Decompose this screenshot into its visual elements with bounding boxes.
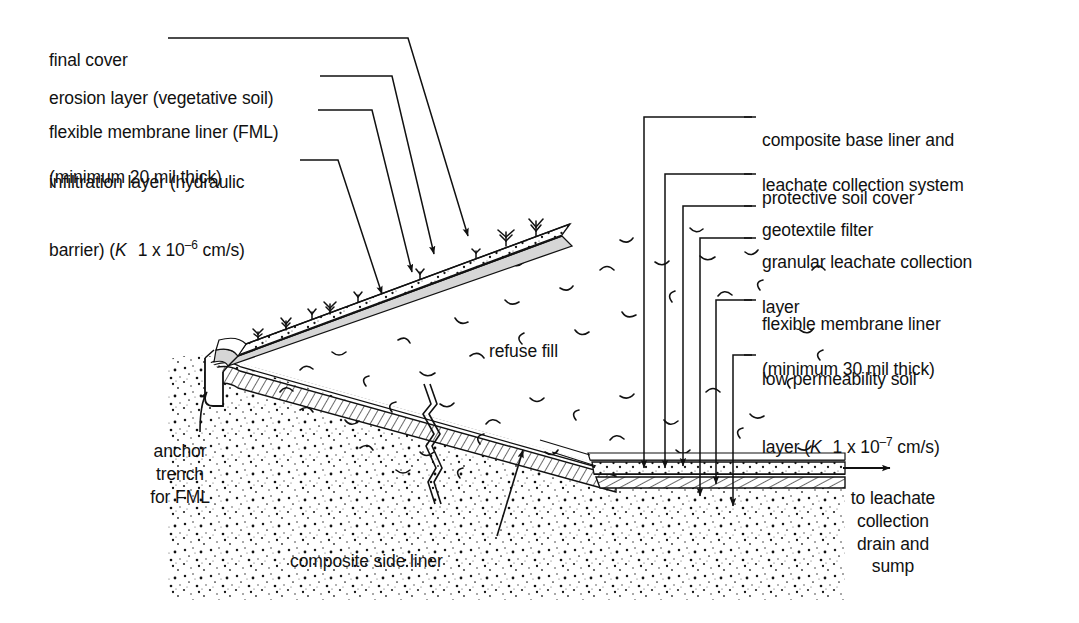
label-infiltration-pre: barrier) (	[49, 240, 115, 260]
label-low-permeability-soil-layer: low permeability soil layer (K1 x 10–7 c…	[762, 345, 940, 482]
label-to-leachate-collection: to leachate collection drain and sump	[818, 487, 968, 578]
label-infiltration-layer: infiltration layer (hydraulic barrier) (…	[49, 148, 245, 285]
label-low-perm-pre: layer (	[762, 437, 810, 457]
label-anchor-trench: anchor trench for FML	[120, 440, 240, 508]
label-fml-base-line1: flexible membrane liner	[762, 313, 941, 336]
label-low-perm-exponent: –7	[880, 435, 893, 449]
leader-erosion-layer	[320, 76, 434, 254]
leader-cover-fml	[318, 110, 412, 272]
label-low-perm-unit: cm/s)	[893, 437, 940, 457]
permeability-symbol-k-cover: K	[115, 240, 127, 260]
label-infiltration-line2: barrier) (K1 x 10–6 cm/s)	[49, 216, 245, 262]
label-composite-side-liner: composite side liner	[290, 550, 443, 573]
label-composite-base-liner-line1: composite base liner and	[762, 129, 964, 152]
right-leader-dashes	[744, 117, 756, 355]
label-infiltration-exponent: –6	[185, 238, 198, 252]
label-low-perm-line1: low permeability soil	[762, 368, 940, 391]
label-low-perm-line2: layer (K1 x 10–7 cm/s)	[762, 413, 940, 459]
label-infiltration-value: 1 x 10	[138, 240, 185, 260]
label-granular-leachate-line1: granular leachate collection	[762, 251, 972, 274]
figure-canvas: final cover erosion layer (vegetative so…	[0, 0, 1079, 623]
label-fml-cover-line1: flexible membrane liner (FML)	[49, 121, 279, 144]
label-low-perm-value: 1 x 10	[833, 437, 880, 457]
permeability-symbol-k-base: K	[810, 437, 822, 457]
label-refuse-fill: refuse fill	[489, 340, 558, 363]
leader-infiltration-layer	[300, 160, 382, 294]
label-infiltration-line1: infiltration layer (hydraulic	[49, 171, 245, 194]
label-infiltration-unit: cm/s)	[198, 240, 245, 260]
